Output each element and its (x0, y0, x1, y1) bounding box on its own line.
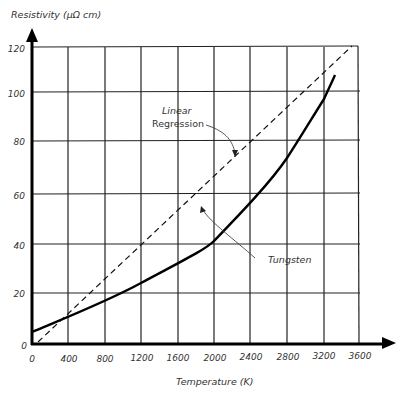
x-tick: 3600 (349, 351, 372, 361)
x-tick: 1200 (131, 353, 154, 363)
y-axis-arrow-icon (26, 28, 38, 42)
y-tick: 0 (21, 341, 27, 351)
y-tick: 40 (14, 241, 26, 251)
y-tick: 100 (8, 89, 25, 99)
annotation-arrow-tungsten (203, 210, 255, 258)
annotation-tungsten: Tungsten (268, 254, 311, 265)
y-axis (26, 28, 38, 345)
x-tick: 3200 (313, 351, 336, 361)
x-tick: 2000 (204, 353, 227, 363)
y-tick-labels: 120 100 80 60 40 20 0 (8, 44, 27, 351)
y-axis-title: Resistivity (μΩ cm) (11, 9, 101, 20)
annotation-linear-line1: Linear (162, 105, 193, 116)
x-axis-arrow-icon (382, 337, 396, 349)
y-tick: 120 (8, 44, 25, 54)
chart: Linear Regression Tungsten Resistivity (… (0, 0, 407, 393)
y-tick: 60 (14, 191, 26, 201)
x-tick-labels: 0 400 800 1200 1600 2000 2400 2800 3200 … (29, 351, 372, 364)
x-tick: 800 (96, 354, 113, 364)
y-tick: 20 (14, 289, 26, 299)
annotation-arrow-linear-regression (206, 125, 235, 152)
x-tick: 2400 (240, 352, 263, 362)
x-tick: 1600 (167, 353, 190, 363)
x-tick: 0 (29, 354, 35, 364)
arrowhead-tungsten-icon (200, 206, 206, 213)
x-axis-title: Temperature (K) (176, 376, 254, 387)
annotation-linear-line2: Regression (152, 118, 204, 129)
x-tick: 400 (60, 354, 77, 364)
x-tick: 2800 (277, 352, 300, 362)
y-tick: 80 (14, 137, 26, 147)
